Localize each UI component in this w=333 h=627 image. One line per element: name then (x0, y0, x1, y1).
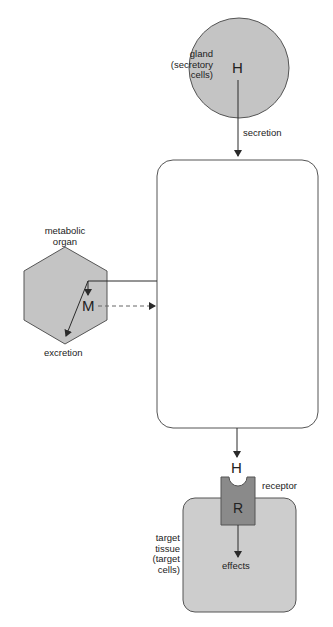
metabolite-symbol: M (82, 297, 95, 314)
target-label-line1: target (140, 533, 180, 544)
target-label-line4: cells) (140, 565, 180, 576)
metabolic-organ-label: metabolic organ (30, 226, 100, 247)
metabolic-organ-hexagon (24, 247, 107, 344)
effects-label: effects (222, 561, 250, 572)
gland-label-line3: cells) (160, 70, 213, 81)
receptor-symbol: R (233, 500, 243, 516)
receptor-label: receptor (262, 481, 297, 492)
metabolic-organ-line1: metabolic (30, 226, 100, 237)
blood-compartment (157, 160, 318, 428)
metabolic-organ-line2: organ (30, 237, 100, 248)
excretion-label: excretion (44, 348, 83, 359)
gland-label: gland (secretory cells) (160, 49, 213, 81)
target-hormone-symbol: H (231, 459, 242, 476)
target-label-line3: (target (140, 554, 180, 565)
secretion-label: secretion (243, 128, 282, 139)
gland-label-line1: gland (160, 49, 213, 60)
gland-hormone-symbol: H (232, 59, 243, 76)
target-tissue-label: target tissue (target cells) (140, 533, 180, 575)
